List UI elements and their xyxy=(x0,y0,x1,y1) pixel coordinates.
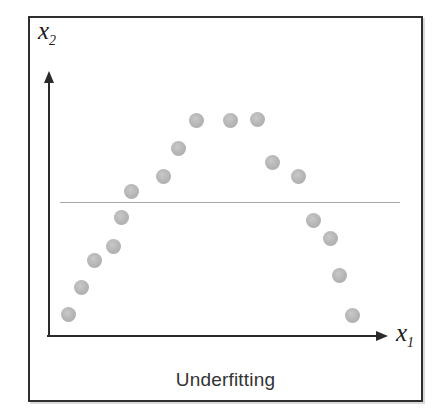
data-point xyxy=(171,141,186,156)
data-point xyxy=(61,307,76,322)
data-point xyxy=(345,308,360,323)
data-point xyxy=(323,231,338,246)
underfitting-figure: x2 x1 Underfitting xyxy=(0,0,445,420)
y-axis-label-text: x xyxy=(38,17,49,44)
y-axis-label: x2 xyxy=(38,18,56,44)
data-point xyxy=(332,268,347,283)
data-point xyxy=(291,169,306,184)
data-point xyxy=(223,113,238,128)
y-axis-label-subscript: 2 xyxy=(49,33,56,48)
data-point xyxy=(189,113,204,128)
x-axis-label-text: x xyxy=(396,319,407,346)
data-point xyxy=(156,169,171,184)
data-point xyxy=(114,210,129,225)
y-axis-arrowhead-icon xyxy=(44,71,54,83)
data-point xyxy=(87,253,102,268)
figure-border-box xyxy=(28,16,423,402)
data-point xyxy=(124,184,139,199)
data-point xyxy=(106,239,121,254)
data-point xyxy=(250,112,265,127)
x-axis-label-subscript: 1 xyxy=(407,335,414,350)
data-point xyxy=(306,213,321,228)
figure-caption: Underfitting xyxy=(28,369,423,391)
x-axis-arrowhead-icon xyxy=(376,331,388,341)
data-point xyxy=(74,280,89,295)
data-point xyxy=(265,155,280,170)
underfit-model-line xyxy=(60,202,400,203)
y-axis xyxy=(48,73,50,335)
x-axis-label: x1 xyxy=(396,320,414,346)
x-axis xyxy=(47,335,386,337)
